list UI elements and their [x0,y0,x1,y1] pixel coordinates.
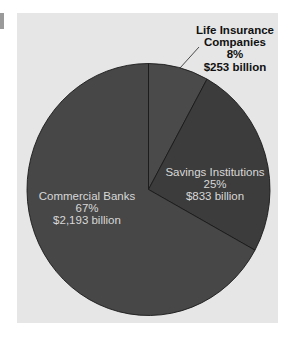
life-label-amt: $253 billion [204,61,267,73]
savings-label-amt: $833 billion [186,190,244,202]
label-life-insurance: Life Insurance Companies 8% $253 billion [196,24,274,73]
savings-label-pct: 25% [203,178,226,190]
leader-line [180,47,199,68]
commercial-label-pct: 67% [75,202,98,214]
life-label-pct: 8% [227,48,244,60]
pie-chart: Life Insurance Companies 8% $253 billion… [0,0,290,345]
life-label-line2: Companies [204,36,266,48]
life-label-line1: Life Insurance [196,24,274,36]
commercial-label-amt: $2,193 billion [53,214,121,226]
commercial-label-line1: Commercial Banks [39,190,136,202]
savings-label-line1: Savings Institutions [165,166,264,178]
